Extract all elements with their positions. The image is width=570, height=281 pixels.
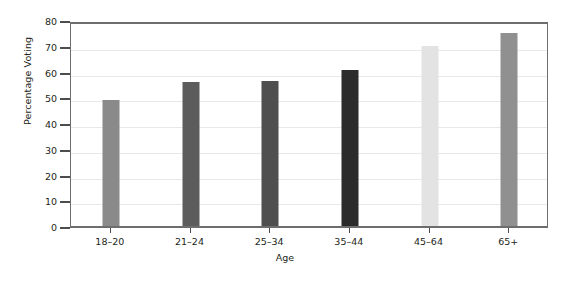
y-axis-tick — [60, 98, 70, 100]
y-axis-tick-label: 0 — [51, 223, 57, 233]
y-axis-tick-label: 60 — [45, 69, 57, 79]
bar — [501, 33, 518, 226]
bar — [421, 46, 438, 226]
x-axis-tick — [190, 228, 191, 233]
y-axis: 01020304050607080 — [0, 22, 70, 228]
x-axis-tick — [269, 228, 270, 233]
bar-series — [71, 24, 547, 226]
bar — [182, 82, 199, 226]
y-axis-tick-label: 30 — [45, 146, 57, 156]
bar — [262, 81, 279, 226]
x-axis-tick-label: 45–64 — [414, 237, 443, 247]
y-axis-tick-label: 50 — [45, 95, 57, 105]
y-axis-tick — [60, 47, 70, 49]
x-axis-tick — [349, 228, 350, 233]
y-axis-tick-label: 40 — [45, 120, 57, 130]
x-axis-title: Age — [0, 252, 570, 263]
y-axis-tick-label: 20 — [45, 172, 57, 182]
x-axis-tick-label: 18–20 — [95, 237, 124, 247]
x-axis-tick — [429, 228, 430, 233]
y-axis-tick — [60, 150, 70, 152]
y-axis-tick — [60, 21, 70, 23]
y-axis-tick — [60, 176, 70, 178]
y-axis-tick — [60, 73, 70, 75]
bar — [102, 100, 119, 226]
y-axis-tick-label: 10 — [45, 198, 57, 208]
x-axis-tick-label: 35–44 — [334, 237, 363, 247]
x-axis-tick-label: 21–24 — [175, 237, 204, 247]
x-axis-tick — [110, 228, 111, 233]
x-axis-tick-label: 65+ — [498, 237, 518, 247]
y-axis-tick-label: 70 — [45, 43, 57, 53]
bar-chart-figure: Percentage Voting 01020304050607080 18–2… — [0, 0, 570, 281]
y-axis-tick — [60, 124, 70, 126]
x-axis-tick — [508, 228, 509, 233]
x-axis-tick-label: 25–34 — [255, 237, 284, 247]
y-axis-tick-label: 80 — [45, 17, 57, 27]
bar — [341, 70, 358, 226]
y-axis-tick — [60, 201, 70, 203]
plot-area — [70, 22, 548, 228]
y-axis-tick — [60, 227, 70, 229]
